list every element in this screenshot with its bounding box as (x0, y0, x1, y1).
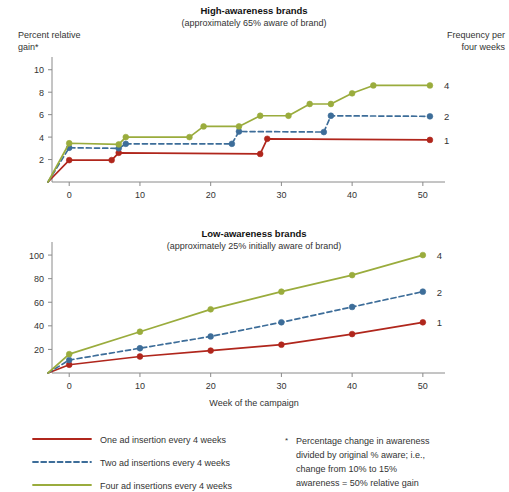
series-marker-low-awareness-2 (66, 351, 72, 357)
legend: One ad insertion every 4 weeksTwo ad ins… (33, 435, 233, 491)
series-marker-high-awareness-1 (427, 113, 433, 119)
y-tick-label-high-awareness-1: 4 (39, 133, 44, 143)
series-marker-high-awareness-2 (123, 134, 129, 140)
frequency-header-line2: four weeks (461, 42, 505, 52)
footnote: *Percentage change in awarenessdivided b… (285, 436, 430, 488)
x-tick-label-low-awareness-3: 30 (276, 381, 286, 391)
frequency-header-line1: Frequency per (447, 30, 505, 40)
x-tick-label-high-awareness-1: 10 (135, 190, 145, 200)
series-marker-low-awareness-1 (420, 289, 426, 295)
series-marker-high-awareness-2 (349, 90, 355, 96)
figure-svg: High-awareness brands(approximately 65% … (0, 0, 509, 492)
frequency-label-high-awareness-2: 2 (444, 111, 449, 122)
series-marker-low-awareness-1 (137, 345, 143, 351)
footnote-line1: Percentage change in awareness (296, 436, 430, 446)
series-marker-high-awareness-2 (370, 83, 376, 89)
series-marker-low-awareness-1 (66, 357, 72, 363)
chart-title-group-high-awareness: High-awareness brands(approximately 65% … (181, 5, 326, 28)
y-tick-label-low-awareness-2: 60 (34, 298, 44, 308)
series-marker-high-awareness-2 (116, 141, 122, 147)
chart-panel-low-awareness: Low-awareness brands(approximately 25% i… (29, 228, 445, 391)
series-marker-low-awareness-2 (349, 272, 355, 278)
series-marker-low-awareness-0 (420, 319, 426, 325)
series-marker-high-awareness-2 (66, 140, 72, 146)
series-line-low-awareness-0 (48, 322, 423, 373)
frequency-label-low-awareness-2: 2 (437, 287, 442, 298)
series-marker-low-awareness-0 (279, 342, 285, 348)
series-marker-low-awareness-2 (420, 252, 426, 258)
footnote-line4: awareness = 50% relative gain (296, 478, 419, 488)
frequency-header-group: Frequency perfour weeks (447, 30, 506, 52)
figure-root: High-awareness brands(approximately 65% … (0, 0, 509, 492)
series-marker-high-awareness-0 (264, 136, 270, 142)
series-marker-high-awareness-0 (257, 151, 263, 157)
y-tick-label-high-awareness-0: 2 (39, 155, 44, 165)
series-marker-low-awareness-2 (279, 289, 285, 295)
series-marker-low-awareness-1 (349, 304, 355, 310)
series-marker-high-awareness-1 (123, 141, 129, 147)
series-marker-high-awareness-1 (321, 129, 327, 135)
series-marker-low-awareness-0 (208, 348, 214, 354)
y-tick-label-low-awareness-3: 80 (34, 274, 44, 284)
x-axis-title: Week of the campaign (209, 398, 298, 408)
footnote-line3: change from 10% to 15% (296, 464, 397, 474)
y-tick-label-high-awareness-2: 6 (39, 110, 44, 120)
frequency-label-low-awareness-1: 1 (437, 317, 442, 328)
y-axis-title-line2: gain* (18, 42, 39, 52)
series-marker-high-awareness-1 (328, 113, 334, 119)
series-marker-high-awareness-2 (236, 124, 242, 130)
series-marker-high-awareness-2 (286, 113, 292, 119)
x-tick-label-high-awareness-5: 50 (418, 190, 428, 200)
frequency-label-high-awareness-1: 1 (444, 135, 449, 146)
frequency-label-low-awareness-4: 4 (437, 250, 442, 261)
series-marker-high-awareness-2 (257, 113, 263, 119)
x-tick-label-low-awareness-1: 10 (135, 381, 145, 391)
series-marker-low-awareness-2 (137, 329, 143, 335)
footnote-marker: * (285, 436, 288, 445)
frequency-label-high-awareness-4: 4 (444, 80, 449, 91)
x-tick-label-high-awareness-3: 30 (276, 190, 286, 200)
y-tick-label-low-awareness-0: 20 (34, 345, 44, 355)
series-marker-low-awareness-0 (137, 354, 143, 360)
y-tick-label-low-awareness-4: 100 (29, 251, 44, 261)
chart-title-high-awareness: High-awareness brands (200, 5, 307, 16)
y-tick-label-high-awareness-4: 10 (34, 65, 44, 75)
series-marker-high-awareness-2 (307, 101, 313, 107)
chart-title-group-low-awareness: Low-awareness brands(approximately 25% i… (167, 228, 342, 251)
chart-title-low-awareness: Low-awareness brands (201, 228, 306, 239)
series-marker-high-awareness-1 (229, 141, 235, 147)
series-line-high-awareness-0 (48, 139, 430, 182)
series-marker-high-awareness-0 (109, 157, 115, 163)
series-marker-high-awareness-2 (328, 101, 334, 107)
x-tick-label-low-awareness-0: 0 (67, 381, 72, 391)
x-tick-label-low-awareness-2: 20 (206, 381, 216, 391)
y-axis-title-group: Percent relativegain* (18, 30, 81, 52)
y-axis-title-line1: Percent relative (18, 30, 81, 40)
x-tick-label-low-awareness-4: 40 (347, 381, 357, 391)
series-marker-high-awareness-0 (66, 157, 72, 163)
series-marker-low-awareness-0 (349, 331, 355, 337)
x-tick-label-low-awareness-5: 50 (418, 381, 428, 391)
legend-label-2: Four ad insertions every 4 weeks (100, 481, 233, 491)
series-marker-low-awareness-2 (208, 306, 214, 312)
legend-label-1: Two ad insertions every 4 weeks (100, 458, 231, 468)
footnote-line2: divided by original % aware; i.e., (296, 450, 425, 460)
x-tick-label-high-awareness-0: 0 (67, 190, 72, 200)
series-marker-low-awareness-1 (279, 319, 285, 325)
chart-panel-high-awareness: High-awareness brands(approximately 65% … (34, 5, 449, 200)
y-tick-label-high-awareness-3: 8 (39, 88, 44, 98)
series-line-low-awareness-2 (48, 255, 423, 373)
series-marker-high-awareness-0 (427, 137, 433, 143)
series-marker-low-awareness-1 (208, 334, 214, 340)
series-marker-high-awareness-2 (201, 124, 207, 130)
x-tick-label-high-awareness-2: 20 (206, 190, 216, 200)
series-marker-high-awareness-2 (427, 83, 433, 89)
x-tick-label-high-awareness-4: 40 (347, 190, 357, 200)
legend-label-0: One ad insertion every 4 weeks (100, 435, 227, 445)
chart-subtitle-high-awareness: (approximately 65% aware of brand) (181, 18, 326, 28)
series-marker-high-awareness-2 (187, 134, 193, 140)
chart-subtitle-low-awareness: (approximately 25% initially aware of br… (167, 241, 342, 251)
y-tick-label-low-awareness-1: 40 (34, 321, 44, 331)
